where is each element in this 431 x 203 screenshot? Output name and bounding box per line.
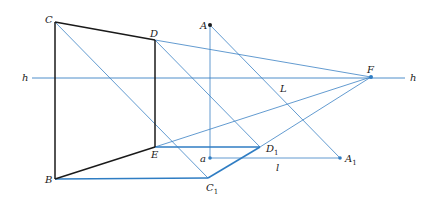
- label-D1-base: D: [266, 143, 274, 154]
- label-C: C: [45, 15, 53, 25]
- line-D-D1: [155, 40, 260, 147]
- label-C1: C1: [206, 183, 218, 196]
- point-a: [208, 156, 212, 160]
- diagram-canvas: [0, 0, 431, 203]
- label-h-right: h: [410, 73, 416, 83]
- line-E-F: [155, 77, 371, 147]
- label-D1-sub: 1: [274, 149, 278, 157]
- label-h-left: h: [22, 73, 28, 83]
- line-C1-D1: [208, 147, 260, 178]
- label-L: L: [280, 84, 287, 94]
- label-F: F: [367, 65, 374, 75]
- edge-E-B: [55, 147, 155, 179]
- label-C1-sub: 1: [214, 188, 218, 196]
- point-A1: [338, 156, 342, 160]
- label-A1: A1: [345, 154, 357, 167]
- label-B: B: [45, 175, 52, 185]
- label-A1-sub: 1: [352, 159, 356, 167]
- line-D-F: [155, 40, 371, 77]
- label-D: D: [150, 29, 158, 39]
- perspective-diagram: h h C D E B A a F L l D1 C1 A1: [0, 0, 431, 203]
- label-l: l: [276, 163, 279, 173]
- line-D1-F: [260, 77, 371, 147]
- label-D1: D1: [266, 144, 279, 157]
- line-B-C1: [55, 178, 208, 179]
- label-C1-base: C: [206, 182, 214, 193]
- point-A: [208, 23, 212, 27]
- line-A-A1: [210, 25, 340, 158]
- point-F: [369, 75, 373, 79]
- label-a: a: [200, 154, 206, 164]
- label-E: E: [151, 150, 158, 160]
- label-A: A: [200, 21, 207, 31]
